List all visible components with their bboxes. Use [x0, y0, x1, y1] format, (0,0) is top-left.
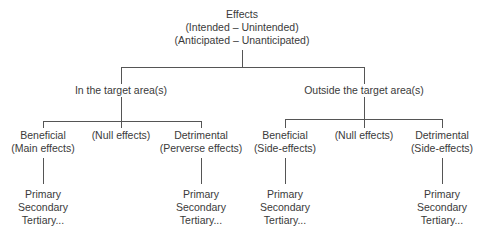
node-label: Beneficial [11, 129, 74, 142]
node-sublabel: (Side-effects) [411, 142, 473, 155]
connector-leaf-1 [43, 158, 44, 184]
leaf-primary: Primary [18, 188, 68, 201]
leaf-tertiary: Tertiary... [176, 214, 226, 227]
node-label: Detrimental [411, 129, 473, 142]
leaf-secondary: Secondary [260, 201, 310, 214]
root-node: Effects (Intended – Unintended) (Anticip… [175, 8, 310, 47]
node-null-effects-in-target: (Null effects) [92, 129, 151, 142]
node-null-effects-outside: (Null effects) [335, 129, 394, 142]
leaf-secondary: Secondary [18, 201, 68, 214]
connector-left-null [121, 121, 122, 128]
leaf-secondary: Secondary [176, 201, 226, 214]
connector-root [242, 50, 243, 67]
connector-left-detrimental [201, 121, 202, 128]
node-label: Detrimental [160, 129, 243, 142]
root-subtitle-intended: (Intended – Unintended) [175, 21, 310, 34]
connector-right-null [364, 119, 365, 128]
node-detrimental-perverse: Detrimental (Perverse effects) [160, 129, 243, 155]
leaf-list-detrimental-side: Primary Secondary Tertiary... [417, 188, 467, 227]
connector-branches-horizontal [121, 67, 365, 68]
leaf-tertiary: Tertiary... [260, 214, 310, 227]
branch-in-target-label: In the target area(s) [73, 84, 169, 97]
node-beneficial-side: Beneficial (Side-effects) [254, 129, 316, 155]
connector-left-group-horizontal [43, 121, 201, 122]
leaf-tertiary: Tertiary... [18, 214, 68, 227]
node-label: Beneficial [254, 129, 316, 142]
leaf-primary: Primary [260, 188, 310, 201]
root-title: Effects [175, 8, 310, 21]
node-label: (Null effects) [335, 129, 394, 142]
leaf-list-beneficial-main: Primary Secondary Tertiary... [18, 188, 68, 227]
node-sublabel: (Main effects) [11, 142, 74, 155]
connector-right-beneficial [285, 119, 286, 128]
node-beneficial-main: Beneficial (Main effects) [11, 129, 74, 155]
leaf-primary: Primary [176, 188, 226, 201]
connector-leaf-2 [201, 158, 202, 184]
leaf-tertiary: Tertiary... [417, 214, 467, 227]
root-subtitle-anticipated: (Anticipated – Unanticipated) [175, 34, 310, 47]
node-sublabel: (Perverse effects) [160, 142, 243, 155]
leaf-secondary: Secondary [417, 201, 467, 214]
node-detrimental-side: Detrimental (Side-effects) [411, 129, 473, 155]
leaf-list-detrimental-perverse: Primary Secondary Tertiary... [176, 188, 226, 227]
connector-right-detrimental [442, 119, 443, 128]
connector-left-beneficial [43, 121, 44, 128]
node-label: (Null effects) [92, 129, 151, 142]
leaf-list-beneficial-side: Primary Secondary Tertiary... [260, 188, 310, 227]
branch-outside-target-label: Outside the target area(s) [302, 84, 426, 97]
connector-leaf-4 [442, 158, 443, 184]
node-sublabel: (Side-effects) [254, 142, 316, 155]
leaf-primary: Primary [417, 188, 467, 201]
connector-leaf-3 [285, 158, 286, 184]
